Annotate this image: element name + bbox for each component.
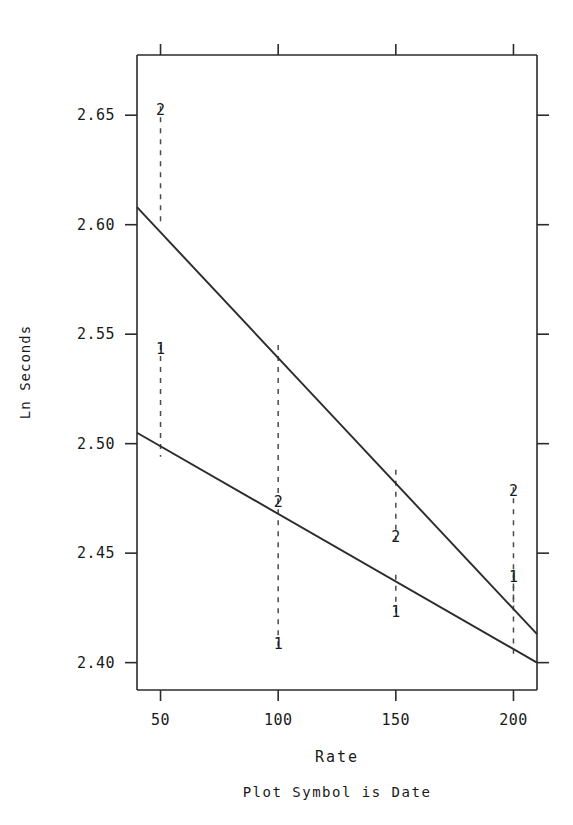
plot-symbol-2: 2 (274, 493, 283, 511)
plot-symbol-2: 2 (391, 528, 400, 546)
x-tick-label: 150 (382, 711, 411, 729)
y-tick-label: 2.65 (77, 106, 115, 124)
plot-symbol-1: 1 (509, 568, 518, 586)
chart-figure: 50100150200 2.402.452.502.552.602.65 212… (0, 0, 573, 825)
y-tick-label: 2.40 (77, 654, 115, 672)
plot-symbol-2: 2 (509, 482, 518, 500)
plot-footnote: Plot Symbol is Date (243, 784, 432, 800)
y-tick-label: 2.55 (77, 325, 115, 343)
y-tick-label: 2.60 (77, 216, 115, 234)
x-tick-label: 50 (151, 711, 170, 729)
plot-symbol-1: 1 (391, 603, 400, 621)
x-tick-label: 200 (499, 711, 528, 729)
x-axis-title: Rate (315, 748, 359, 766)
plot-symbol-2: 2 (156, 101, 165, 119)
y-axis-title: Ln Seconds (17, 325, 33, 419)
scatter-plot-canvas: 50100150200 2.402.452.502.552.602.65 212… (0, 0, 573, 825)
y-tick-label: 2.45 (77, 544, 115, 562)
x-tick-label: 100 (264, 711, 293, 729)
y-tick-label: 2.50 (77, 435, 115, 453)
plot-symbol-1: 1 (274, 635, 283, 653)
plot-symbol-1: 1 (156, 340, 165, 358)
